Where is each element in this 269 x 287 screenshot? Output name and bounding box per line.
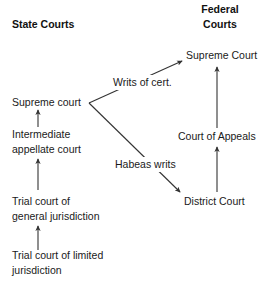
node-federal-court-of-appeals: Court of Appeals: [178, 129, 256, 144]
heading-state-courts: State Courts: [12, 17, 74, 32]
heading-federal-courts: Federal Courts: [176, 2, 264, 32]
edge-label-habeas-writs: Habeas writs: [115, 157, 176, 172]
node-state-trial-court-limited: Trial court of limited jurisdiction: [12, 248, 103, 278]
node-federal-supreme-court: Supreme Court: [186, 48, 257, 63]
node-federal-district-court: District Court: [184, 194, 245, 209]
court-system-diagram: State Courts Federal Courts Supreme cour…: [0, 0, 269, 287]
node-state-intermediate-appellate-court: Intermediate appellate court: [12, 127, 81, 157]
node-state-trial-court-general: Trial court of general jurisdiction: [12, 194, 100, 224]
node-state-supreme-court: Supreme court: [12, 95, 81, 110]
edge-label-writs-of-cert: Writs of cert.: [113, 75, 172, 90]
edge-habeas-writs: [89, 103, 180, 192]
